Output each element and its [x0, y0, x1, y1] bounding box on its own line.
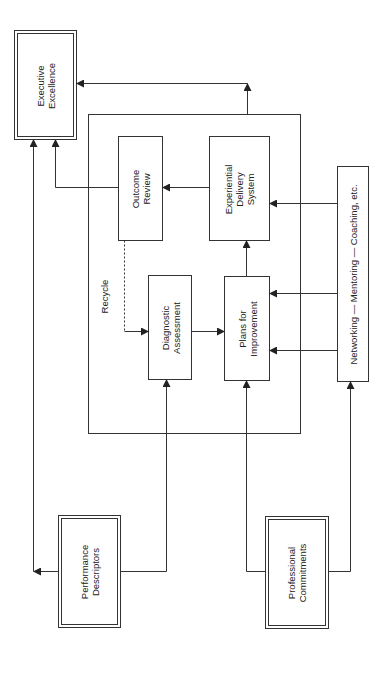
arrow-performance-to-diagnostic	[121, 380, 167, 572]
recycle-edge-label: Recycle	[90, 276, 120, 316]
diagnostic-assessment-node: Diagnostic Assessment	[149, 276, 192, 380]
professional-commitments-label: Professional Commitments	[287, 544, 309, 603]
professional-commitments-node: Professional Commitments	[266, 517, 329, 629]
performance-descriptors-node: Performance Descriptors	[59, 516, 121, 628]
networking-label: Networking — Mentoring — Coaching, etc.	[348, 184, 359, 364]
outcome-review-node: Outcome Review	[119, 137, 163, 241]
arrow-outcome-to-executive	[56, 140, 119, 188]
outcome-review-label: Outcome Review	[130, 170, 152, 209]
experiential-delivery-label: Experiential Delivery System	[223, 164, 256, 214]
plans-for-improvement-label: Plans for Improvement	[237, 301, 259, 356]
recycle-label: Recycle	[100, 279, 111, 313]
performance-descriptors-label: Performance Descriptors	[79, 545, 101, 599]
plans-for-improvement-node: Plans for Improvement	[225, 277, 270, 381]
executive-excellence-label: Executive Excellence	[35, 63, 57, 109]
arrow-professional-to-networking	[329, 382, 351, 572]
executive-excellence-node: Executive Excellence	[15, 31, 77, 140]
arrow-professional-to-plans	[247, 381, 266, 572]
arrow-container-to-executive	[77, 84, 248, 115]
networking-node: Networking — Mentoring — Coaching, etc.	[338, 167, 369, 382]
diagnostic-assessment-label: Diagnostic Assessment	[160, 302, 182, 354]
experiential-delivery-node: Experiential Delivery System	[210, 137, 270, 241]
